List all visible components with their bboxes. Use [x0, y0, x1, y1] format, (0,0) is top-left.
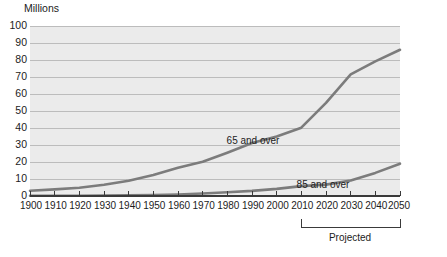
projected-label: Projected [329, 232, 371, 243]
xtick-label-2030: 2030 [341, 200, 364, 211]
ytick-label-30: 30 [15, 138, 27, 150]
xtick-label-2050: 2050 [388, 200, 411, 211]
population-line-chart: Millions 100 90 80 70 60 50 40 30 20 10 … [0, 0, 447, 257]
ytick-label-40: 40 [15, 121, 27, 133]
xtick-label-1970: 1970 [193, 200, 216, 211]
xtick-label-2000: 2000 [267, 200, 290, 211]
ytick-label-10: 10 [15, 172, 27, 184]
xtick-label-1900: 1900 [20, 200, 43, 211]
series-annotation-65-and-over: 65 and over [227, 135, 280, 146]
projected-bracket [301, 219, 400, 227]
xtick-label-1940: 1940 [119, 200, 142, 211]
xtick-label-1990: 1990 [242, 200, 265, 211]
ytick-label-100: 100 [9, 19, 27, 31]
xtick-label-1930: 1930 [94, 200, 117, 211]
xtick-label-1960: 1960 [168, 200, 191, 211]
xtick-label-1920: 1920 [69, 200, 92, 211]
xtick-label-2010: 2010 [291, 200, 314, 211]
x-axis-tick-labels: 1900 1910 1920 1930 1940 1950 1960 1970 … [20, 200, 411, 211]
ytick-label-20: 20 [15, 155, 27, 167]
y-axis-unit-label: Millions [24, 2, 59, 14]
xtick-label-1980: 1980 [217, 200, 240, 211]
xtick-label-2020: 2020 [316, 200, 339, 211]
y-axis-tick-labels: 100 90 80 70 60 50 40 30 20 10 0 [9, 19, 27, 201]
ytick-label-90: 90 [15, 36, 27, 48]
ytick-label-60: 60 [15, 87, 27, 99]
ytick-label-70: 70 [15, 70, 27, 82]
xtick-label-1910: 1910 [45, 200, 68, 211]
ytick-label-80: 80 [15, 53, 27, 65]
ytick-label-50: 50 [15, 104, 27, 116]
xtick-label-1950: 1950 [143, 200, 166, 211]
series-annotation-85-and-over: 85 and over [297, 179, 350, 190]
chart-canvas: Millions 100 90 80 70 60 50 40 30 20 10 … [0, 0, 447, 257]
xtick-label-2040: 2040 [365, 200, 388, 211]
